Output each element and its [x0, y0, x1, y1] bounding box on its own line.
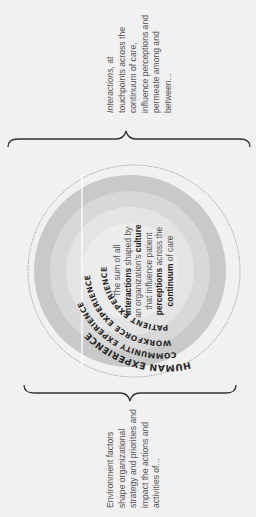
- definition-line: an organization's: [133, 252, 143, 317]
- environment-factors-text: Environment factors shape organizational…: [105, 408, 163, 508]
- definition-line: The sum of all: [112, 245, 122, 298]
- left-bracket: [24, 385, 236, 401]
- keyword-continuum: continuum: [165, 264, 175, 307]
- keyword-culture: culture: [133, 224, 143, 252]
- keyword-interactions: interactions: [123, 268, 133, 315]
- definition-line: of care: [165, 236, 175, 264]
- definition-line: shaped by: [123, 227, 133, 268]
- interactions-text: Interactions, at touchpoints across the …: [105, 13, 175, 113]
- patient-experience-definition: The sum of all interactions shaped by an…: [112, 221, 176, 321]
- experience-diagram: HUMAN EXPERIENCE COMMUNITY EXPERIENCE WO…: [0, 0, 256, 517]
- right-bracket: [8, 131, 250, 147]
- interactions-rest: , at touchpoints across the continuum of…: [105, 15, 173, 113]
- interactions-keyword: Interactions: [105, 69, 115, 113]
- keyword-perceptions: perceptions: [154, 268, 164, 315]
- definition-line: that influence patient: [144, 232, 154, 309]
- definition-line: across the: [154, 227, 164, 268]
